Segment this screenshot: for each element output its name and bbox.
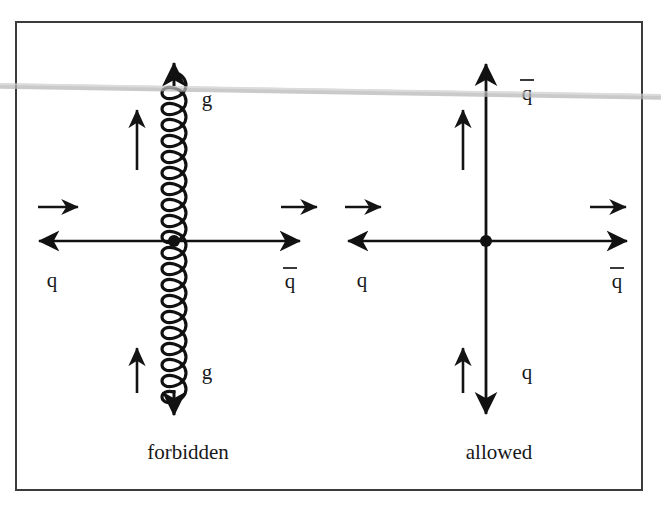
label-right-qbar-forbidden-group: q [283, 268, 297, 293]
label-left-q-allowed: q [357, 268, 368, 292]
vertex-dot [480, 235, 492, 247]
label-bottom-q-allowed: q [522, 360, 533, 384]
feynman-diagram-svg: q q g g forbidden [0, 0, 661, 505]
label-left-q-forbidden: q [47, 268, 58, 292]
label-bottom-g-forbidden: g [202, 360, 213, 384]
caption-forbidden: forbidden [147, 440, 229, 464]
label-right-qbar-forbidden: q [285, 269, 296, 293]
vertex-dot [168, 235, 180, 247]
label-right-qbar-allowed-group: q [610, 268, 624, 293]
label-right-qbar-allowed: q [612, 269, 623, 293]
caption-allowed: allowed [466, 440, 533, 464]
figure-root: q q g g forbidden [0, 0, 661, 505]
page-background [0, 0, 661, 505]
